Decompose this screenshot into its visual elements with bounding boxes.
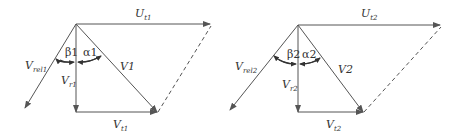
velocity-diagrams: Ut1 Vrel1 Vr1 V1 Vt1 β1 α1 Ut2 Vrel2 Vr2…	[0, 0, 459, 138]
v-label: V1	[120, 60, 135, 73]
v-vector	[298, 25, 363, 112]
alpha-label: α1	[83, 46, 97, 59]
vr-label: Vr2	[282, 78, 298, 93]
v-vector	[76, 24, 157, 112]
velocity-triangle-1: Ut1 Vrel1 Vr1 V1 Vt1 β1 α1	[25, 7, 211, 133]
vr-label: Vr1	[61, 74, 77, 89]
u-label: Ut1	[135, 7, 152, 22]
alpha-label: α2	[302, 48, 316, 61]
vt-label: Vt2	[326, 118, 342, 133]
dashed-closing-line	[158, 26, 211, 112]
beta-label: β2	[287, 48, 300, 61]
velocity-triangle-2: Ut2 Vrel2 Vr2 V2 Vt2 β2 α2	[230, 7, 441, 133]
u-label: Ut2	[361, 7, 378, 22]
v-label: V2	[338, 63, 353, 76]
dashed-closing-line	[364, 27, 441, 112]
alpha-arc-2	[300, 61, 316, 64]
beta-label: β1	[65, 46, 78, 59]
vrel-label: Vrel1	[25, 59, 47, 74]
vrel-label: Vrel2	[235, 60, 258, 75]
vt-label: Vt1	[113, 118, 128, 133]
